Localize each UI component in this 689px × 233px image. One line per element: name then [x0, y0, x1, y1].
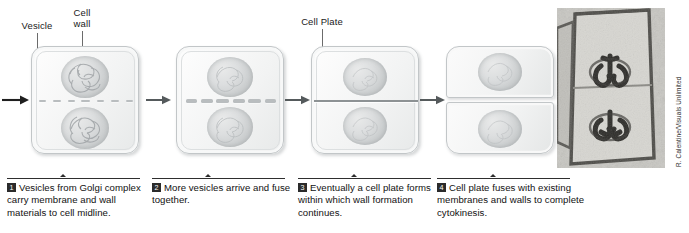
stage-2-chromatin-top: [207, 57, 253, 97]
caption-step-1: 1Vesicles from Golgi complex carry membr…: [7, 182, 147, 219]
step-number-badge: 1: [7, 183, 16, 192]
callout-cell-plate-label: Cell Plate: [289, 16, 355, 27]
callout-cell-wall-label: Cell wall: [62, 7, 102, 29]
caption-pointer-icon: [351, 174, 357, 177]
stage-4-chromatin-top: [478, 53, 522, 91]
caption-step-1-text: Vesicles from Golgi complex carry membra…: [7, 182, 141, 218]
callout-vesicle-label: Vesicle: [14, 20, 60, 31]
stage-4-chromatin-bottom: [478, 110, 522, 148]
vesicle: [126, 100, 133, 103]
caption-rule: [298, 178, 431, 179]
stage-2-vesicle-row: [186, 99, 276, 103]
micrograph-photo: [557, 8, 665, 168]
cell-plate: [314, 100, 418, 102]
stage-arrow-2-3: [285, 95, 311, 105]
daughter-cell-top: [446, 46, 554, 98]
cytokinesis-figure: Vesicle Cell wall Cell Plate: [0, 0, 689, 233]
caption-pointer-icon: [60, 174, 66, 177]
inflow-arrow: [2, 95, 30, 105]
daughter-cell-bottom: [446, 102, 554, 154]
photo-credit: R. Calentine/Visuals Unlimited: [675, 77, 682, 167]
vesicle: [81, 100, 90, 103]
step-number-badge: 4: [437, 183, 446, 192]
caption-rule: [437, 178, 570, 179]
stage-4-cell-pair: [446, 46, 554, 154]
caption-step-3-text: Eventually a cell plate forms within whi…: [298, 182, 431, 218]
stage-arrow-1-2: [146, 95, 172, 105]
vesicle: [111, 100, 119, 103]
step-number-badge: 2: [152, 183, 161, 192]
stage-1-cell: [31, 46, 139, 154]
vesicle: [53, 100, 61, 103]
vesicle: [68, 100, 75, 103]
stage-1-vesicle-row: [39, 99, 133, 103]
vesicle: [201, 99, 213, 102]
vesicle: [233, 99, 245, 102]
caption-pointer-icon: [490, 174, 496, 177]
vesicle: [265, 99, 276, 102]
vesicle: [248, 99, 261, 102]
stage-arrow-3-4: [420, 95, 446, 105]
caption-rule: [152, 178, 285, 179]
stage-2-cell: [176, 46, 284, 154]
stage-2-chromatin-bottom: [207, 107, 253, 147]
caption-step-4: 4Cell plate fuses with existing membrane…: [437, 182, 585, 219]
caption-step-3: 3Eventually a cell plate forms within wh…: [298, 182, 440, 219]
vesicle: [216, 99, 229, 102]
caption-step-4-text: Cell plate fuses with existing membranes…: [437, 182, 584, 218]
step-number-badge: 3: [298, 183, 307, 192]
stage-3-cell: [311, 46, 419, 154]
stage-1-chromatin-top: [61, 56, 109, 98]
stage-3-chromatin-bottom: [343, 107, 387, 145]
vesicle: [186, 99, 197, 102]
caption-pointer-icon: [205, 174, 211, 177]
caption-rule: [7, 178, 140, 179]
stage-1-chromatin-bottom: [61, 107, 109, 149]
caption-step-2: 2More vesicles arrive and fuse together.: [152, 182, 292, 207]
vesicle: [39, 100, 46, 103]
caption-step-2-text: More vesicles arrive and fuse together.: [152, 182, 290, 205]
vesicle: [97, 100, 104, 103]
stage-3-chromatin-top: [343, 58, 387, 96]
